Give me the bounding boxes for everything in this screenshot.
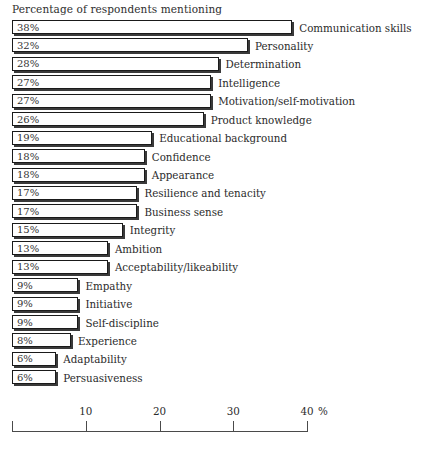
bar-row: 32%Personality: [0, 37, 425, 55]
bar-category-label: Experience: [78, 335, 137, 347]
bar-value-label: 13%: [17, 261, 39, 273]
bar-row: 17%Business sense: [0, 203, 425, 221]
bar-value-label: 8%: [17, 335, 33, 347]
bar-shape: [12, 94, 211, 108]
x-axis-tick-label: 40: [300, 405, 313, 418]
bar-row: 28%Determination: [0, 56, 425, 74]
bar-row: 18%Appearance: [0, 167, 425, 185]
bars-area: 38%Communication skills32%Personality28%…: [0, 19, 425, 388]
bar-row: 8%Experience: [0, 332, 425, 350]
bar-value-label: 6%: [17, 372, 33, 384]
bar-category-label: Intelligence: [218, 77, 280, 89]
bar-value-label: 17%: [17, 187, 39, 199]
bar-category-label: Acceptability/likeability: [115, 261, 238, 273]
x-axis-tick: [86, 421, 87, 432]
bar-shape: [12, 57, 219, 71]
bar-shape: [12, 75, 211, 89]
bar-value-label: 18%: [17, 151, 39, 163]
bar-row: 9%Empathy: [0, 277, 425, 295]
bar-category-label: Motivation/self-motivation: [218, 95, 355, 107]
bar-shape: [12, 112, 204, 126]
bar-row: 13%Ambition: [0, 240, 425, 258]
bar-category-label: Initiative: [85, 298, 132, 310]
bar-value-label: 15%: [17, 224, 39, 236]
bar-value-label: 38%: [17, 22, 39, 34]
bar-category-label: Integrity: [130, 224, 176, 236]
bar-category-label: Appearance: [152, 169, 214, 181]
bar-value-label: 17%: [17, 206, 39, 218]
bar-value-label: 26%: [17, 114, 39, 126]
x-axis: % 10203040: [0, 405, 425, 451]
bar-category-label: Adaptability: [63, 353, 126, 365]
bar-row: 26%Product knowledge: [0, 111, 425, 129]
x-axis-tick: [160, 421, 161, 432]
bar-shape: [12, 20, 292, 34]
bar-chart: Percentage of respondents mentioning 38%…: [0, 0, 425, 451]
x-axis-tick-label: 20: [153, 405, 166, 418]
bar-value-label: 32%: [17, 40, 39, 52]
bar-value-label: 18%: [17, 169, 39, 181]
bar-category-label: Educational background: [159, 132, 287, 144]
bar-category-label: Personality: [255, 40, 313, 52]
bar-row: 38%Communication skills: [0, 19, 425, 37]
bar-value-label: 27%: [17, 77, 39, 89]
bar-value-label: 28%: [17, 58, 39, 70]
bar-row: 15%Integrity: [0, 222, 425, 240]
bar-value-label: 6%: [17, 353, 33, 365]
bar-category-label: Resilience and tenacity: [144, 187, 266, 199]
bar-row: 9%Self-discipline: [0, 314, 425, 332]
bar-shape: [12, 38, 248, 52]
bar-category-label: Communication skills: [299, 22, 411, 34]
x-axis-tick: [233, 421, 234, 432]
bar-row: 17%Resilience and tenacity: [0, 185, 425, 203]
bar-value-label: 13%: [17, 243, 39, 255]
bar-category-label: Persuasiveness: [63, 372, 142, 384]
bar-value-label: 19%: [17, 132, 39, 144]
chart-title: Percentage of respondents mentioning: [12, 2, 222, 16]
bar-category-label: Product knowledge: [211, 114, 312, 126]
bar-row: 9%Initiative: [0, 296, 425, 314]
bar-row: 27%Motivation/self-motivation: [0, 93, 425, 111]
bar-category-label: Determination: [226, 58, 302, 70]
bar-row: 6%Persuasiveness: [0, 369, 425, 387]
x-axis-unit-label: %: [318, 405, 328, 418]
bar-row: 13%Acceptability/likeability: [0, 259, 425, 277]
x-axis-tick-label: 10: [79, 405, 92, 418]
x-axis-tick: [12, 421, 13, 432]
bar-value-label: 9%: [17, 298, 33, 310]
bar-value-label: 27%: [17, 95, 39, 107]
bar-row: 27%Intelligence: [0, 74, 425, 92]
x-axis-tick-label: 30: [227, 405, 240, 418]
bar-category-label: Ambition: [115, 243, 162, 255]
bar-row: 6%Adaptability: [0, 351, 425, 369]
bar-category-label: Business sense: [144, 206, 223, 218]
bar-category-label: Empathy: [85, 280, 132, 292]
bar-value-label: 9%: [17, 280, 33, 292]
bar-category-label: Confidence: [152, 151, 211, 163]
bar-category-label: Self-discipline: [85, 317, 159, 329]
bar-row: 18%Confidence: [0, 148, 425, 166]
x-axis-tick: [307, 421, 308, 432]
bar-row: 19%Educational background: [0, 130, 425, 148]
bar-value-label: 9%: [17, 317, 33, 329]
